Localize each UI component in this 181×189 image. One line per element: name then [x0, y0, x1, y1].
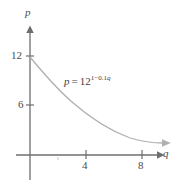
- y-axis-label: p: [25, 7, 31, 18]
- y-tick-label-6: 6: [18, 99, 24, 110]
- exponent-coefficient: 0.1: [98, 74, 107, 82]
- equation-lhs: p: [64, 75, 70, 87]
- x-tick-label-4: 4: [82, 160, 88, 171]
- equation-exponent: 1−0.1q: [91, 74, 111, 82]
- equation-base: 12: [80, 75, 91, 87]
- equation-equals: =: [70, 75, 80, 87]
- graph-figure: p q 12 6 4 8 p=121−0.1q: [0, 0, 181, 189]
- plot-canvas: [0, 0, 181, 189]
- x-axis-label: q: [163, 148, 169, 159]
- x-tick-label-8: 8: [138, 160, 144, 171]
- exponential-decay-curve: [30, 57, 163, 143]
- y-tick-label-12: 12: [11, 50, 22, 61]
- exponent-variable: q: [107, 74, 111, 82]
- curve-equation-annotation: p=121−0.1q: [64, 76, 110, 87]
